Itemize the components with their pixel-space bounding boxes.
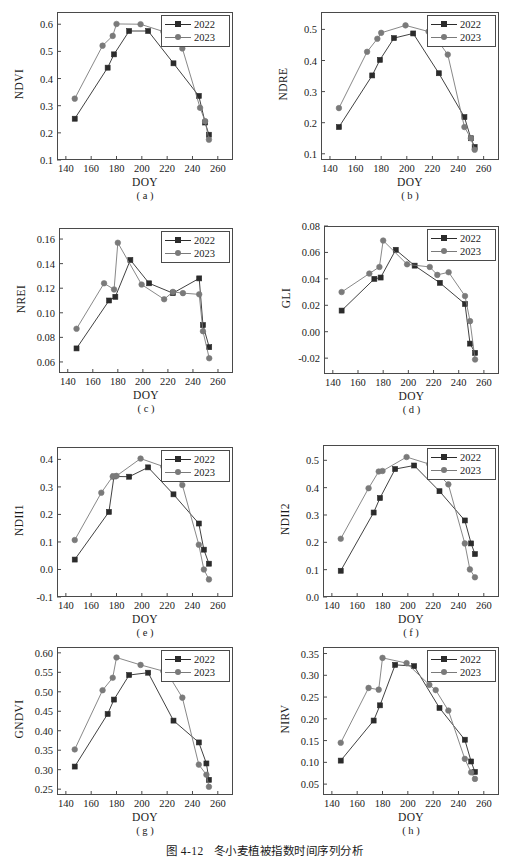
data-point-2022 (462, 737, 467, 742)
legend-item-2022[interactable]: 2022 (431, 232, 491, 245)
data-point-2023 (110, 33, 116, 39)
legend-marker-icon (431, 654, 457, 665)
data-point-2022 (196, 740, 201, 745)
chart-legend[interactable]: 20222023 (427, 229, 496, 261)
data-point-2022 (111, 697, 116, 702)
legend-item-2023[interactable]: 2023 (165, 31, 225, 44)
legend-item-2022[interactable]: 2022 (165, 653, 225, 666)
legend-item-2023[interactable]: 2023 (431, 464, 491, 477)
x-axis-tick-label: 160 (348, 163, 364, 174)
data-point-2022 (146, 465, 151, 470)
x-axis-tick-label: 180 (375, 600, 391, 611)
legend-item-2023[interactable]: 2023 (431, 31, 491, 44)
data-point-2023 (472, 776, 478, 782)
data-point-2022 (338, 568, 343, 573)
y-axis-tick-label: 0.4 (306, 482, 319, 493)
legend-label: 2022 (460, 19, 481, 30)
x-axis-tick-label: 160 (85, 376, 101, 387)
legend-marker-icon (431, 667, 457, 678)
chart-legend[interactable]: 20222023 (161, 450, 230, 482)
x-axis-tick-label: 220 (425, 600, 441, 611)
y-axis-tick-label: 0.20 (301, 713, 319, 724)
data-point-2023 (206, 355, 212, 361)
data-point-2023 (139, 282, 145, 288)
data-point-2023 (202, 118, 208, 124)
chart-legend[interactable]: 20222023 (161, 15, 230, 47)
data-point-2023 (462, 293, 468, 299)
data-point-2022 (377, 496, 382, 501)
legend-label: 2022 (194, 654, 215, 665)
data-point-2023 (336, 105, 342, 111)
data-point-2022 (206, 561, 211, 566)
legend-item-2022[interactable]: 2022 (431, 18, 491, 31)
data-point-2023 (201, 567, 207, 573)
data-point-2023 (338, 536, 344, 542)
data-point-2022 (127, 673, 132, 678)
x-axis-tick-label: 240 (450, 163, 466, 174)
x-axis-tick-label: 240 (451, 377, 467, 388)
y-axis-tick-label: -0.1 (36, 592, 53, 603)
chart-legend[interactable]: 20222023 (161, 231, 230, 263)
chart-legend[interactable]: 20222023 (427, 448, 496, 480)
legend-item-2022[interactable]: 2022 (431, 451, 491, 464)
legend-item-2023[interactable]: 2023 (431, 666, 491, 679)
chart-legend[interactable]: 20222023 (427, 15, 496, 47)
y-axis-tick-label: 0.0 (40, 564, 53, 575)
data-point-2022 (377, 703, 382, 708)
series-line-2022 (77, 260, 210, 348)
data-point-2023 (101, 281, 107, 287)
x-axis-tick-label: 180 (375, 798, 391, 809)
y-axis-tick-label: 0.1 (306, 564, 319, 575)
data-point-2023 (435, 272, 441, 278)
y-axis-tick-label: 0.16 (37, 234, 55, 245)
panel-label: ( b ) (401, 190, 419, 201)
legend-item-2023[interactable]: 2023 (165, 466, 225, 479)
x-axis-tick-label: 200 (134, 163, 150, 174)
legend-label: 2023 (194, 32, 215, 43)
y-axis-label: NDII2 (279, 479, 291, 559)
legend-item-2022[interactable]: 2022 (165, 18, 225, 31)
y-axis-tick-label: 0.06 (37, 356, 55, 367)
data-point-2023 (200, 328, 206, 334)
data-point-2022 (412, 463, 417, 468)
y-axis-tick-label: 0.4 (304, 55, 317, 66)
data-point-2022 (338, 758, 343, 763)
data-point-2023 (467, 318, 473, 324)
data-point-2023 (170, 289, 176, 295)
chart-legend[interactable]: 20222023 (161, 650, 230, 682)
data-point-2023 (446, 708, 452, 714)
data-point-2023 (206, 784, 212, 790)
legend-item-2023[interactable]: 2023 (165, 666, 225, 679)
panel-label: ( d ) (403, 404, 421, 415)
data-point-2023 (114, 21, 120, 27)
data-point-2022 (197, 276, 202, 281)
data-point-2023 (446, 482, 452, 488)
data-point-2023 (364, 49, 370, 55)
data-point-2022 (437, 280, 442, 285)
data-point-2022 (437, 489, 442, 494)
y-axis-tick-label: 0.35 (35, 745, 53, 756)
data-point-2023 (367, 271, 373, 277)
x-axis-tick-label: 220 (159, 798, 175, 809)
data-point-2023 (462, 541, 468, 547)
legend-item-2023[interactable]: 2023 (165, 247, 225, 260)
data-point-2023 (472, 147, 478, 153)
x-axis-tick-label: 260 (476, 377, 492, 388)
legend-item-2022[interactable]: 2022 (165, 453, 225, 466)
legend-item-2022[interactable]: 2022 (431, 653, 491, 666)
legend-label: 2023 (194, 667, 215, 678)
y-axis-tick-label: 0.10 (37, 307, 55, 318)
x-axis-tick-label: 200 (400, 798, 416, 809)
legend-item-2023[interactable]: 2023 (431, 245, 491, 258)
x-axis-tick-label: 260 (210, 798, 226, 809)
x-axis-label: DOY (132, 811, 158, 823)
chart-legend[interactable]: 20222023 (427, 650, 496, 682)
data-point-2023 (74, 326, 80, 332)
legend-item-2022[interactable]: 2022 (165, 234, 225, 247)
y-axis-tick-label: 0.15 (301, 735, 319, 746)
chart-panel-e: -0.10.00.10.20.30.4140160180200220240260… (0, 425, 264, 645)
x-axis-label: DOY (398, 613, 424, 625)
data-point-2023 (204, 772, 210, 778)
data-point-2023 (427, 264, 433, 270)
data-point-2023 (115, 240, 121, 246)
